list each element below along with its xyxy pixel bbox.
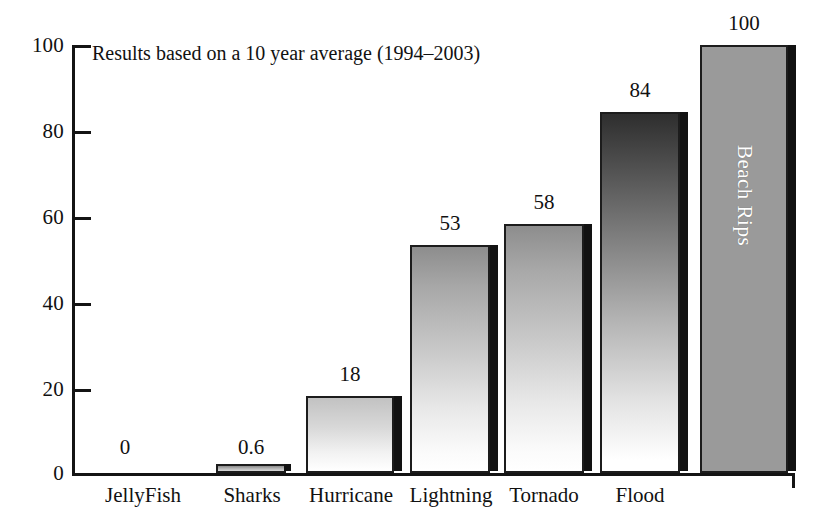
y-axis-label-60: 60 <box>4 207 64 228</box>
y-axis-label-100: 100 <box>4 35 64 56</box>
y-axis-label-0: 0 <box>4 463 64 484</box>
y-axis-label-20-wrap: 20 <box>0 379 64 400</box>
bar-inner-label-beach-rips: Beach Rips <box>732 145 757 246</box>
bar-value-tornado: 58 <box>514 192 574 213</box>
x-axis-label-sharks: Sharks <box>206 483 298 508</box>
y-axis-label-20: 20 <box>4 379 64 400</box>
x-axis-label-flood: Flood <box>595 483 685 508</box>
y-tick-80 <box>75 131 91 134</box>
y-tick-0 <box>75 473 91 476</box>
bar-lightning <box>410 245 490 473</box>
y-axis-label-80-wrap: 80 <box>0 121 64 142</box>
bar-tornado <box>504 224 584 473</box>
y-axis-label-0-wrap: 0 <box>0 463 64 484</box>
bar-value-sharks: 0.6 <box>221 437 281 458</box>
bar-value-hurricane: 18 <box>320 364 380 385</box>
bar-value-flood: 84 <box>610 80 670 101</box>
y-axis-label-100-wrap: 100 <box>0 35 64 56</box>
x-axis-line <box>72 473 795 476</box>
y-tick-20 <box>75 389 91 392</box>
y-tick-100 <box>75 45 91 48</box>
bar-chart: 100 80 60 40 20 0 Results based on a 10 … <box>0 0 821 521</box>
x-axis-label-tornado: Tornado <box>489 483 599 508</box>
y-axis-line <box>72 45 75 476</box>
x-axis-end-tick <box>792 476 795 488</box>
y-axis-label-80: 80 <box>4 121 64 142</box>
bar-flood <box>600 112 680 473</box>
bar-hurricane <box>306 396 394 473</box>
y-axis-label-40: 40 <box>4 293 64 314</box>
x-axis-label-jellyfish: JellyFish <box>82 483 204 508</box>
y-tick-60 <box>75 217 91 220</box>
bar-value-lightning: 53 <box>420 213 480 234</box>
chart-annotation: Results based on a 10 year average (1994… <box>92 41 480 65</box>
bar-value-beach-rips: 100 <box>714 13 774 34</box>
bar-sharks <box>216 464 286 473</box>
bar-beach-rips: Beach Rips <box>700 45 788 473</box>
y-axis-label-40-wrap: 40 <box>0 293 64 314</box>
y-axis-label-60-wrap: 60 <box>0 207 64 228</box>
y-tick-40 <box>75 303 91 306</box>
bar-value-jellyfish: 0 <box>95 437 155 458</box>
